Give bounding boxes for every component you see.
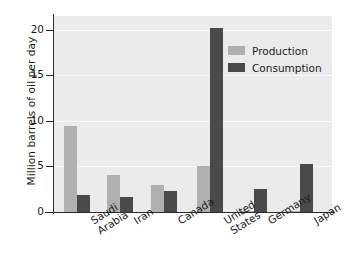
legend-label-production: Production <box>252 45 308 57</box>
y-axis-title: Million barrels of oil per day <box>25 11 37 211</box>
legend-item-consumption: Consumption <box>228 60 322 75</box>
y-tick-mark <box>46 75 54 76</box>
y-axis-line <box>53 14 54 214</box>
y-tick-label: 10 <box>14 115 44 126</box>
y-tick-mark <box>46 30 54 31</box>
legend-label-consumption: Consumption <box>252 62 322 74</box>
bar-consumption <box>77 195 90 212</box>
legend: Production Consumption <box>228 43 322 77</box>
y-tick-label: 5 <box>14 160 44 171</box>
y-tick-label: 0 <box>14 206 44 217</box>
gridline <box>54 166 332 167</box>
gridline <box>54 30 332 31</box>
y-tick-label: 15 <box>14 69 44 80</box>
y-tick-label: 20 <box>14 24 44 35</box>
bar-consumption <box>210 28 223 212</box>
y-tick-mark <box>46 121 54 122</box>
legend-item-production: Production <box>228 43 322 58</box>
gridline <box>54 121 332 122</box>
legend-swatch-production-icon <box>228 46 245 55</box>
bar-production <box>64 126 77 212</box>
y-tick-mark <box>46 212 54 213</box>
y-tick-mark <box>46 166 54 167</box>
legend-swatch-consumption-icon <box>228 63 245 72</box>
